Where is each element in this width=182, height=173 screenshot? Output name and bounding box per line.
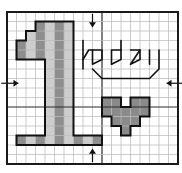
number-one-stitch bbox=[74, 136, 84, 146]
number-one-stitch bbox=[36, 31, 46, 41]
number-one-stitch bbox=[64, 22, 74, 32]
heart-stitch bbox=[140, 98, 150, 108]
number-one-stitch bbox=[45, 88, 55, 98]
number-one-stitch bbox=[55, 79, 65, 89]
number-one-stitch bbox=[64, 117, 74, 127]
number-one-stitch bbox=[93, 136, 103, 146]
heart-stitch bbox=[102, 98, 112, 108]
number-one-stitch bbox=[64, 60, 74, 70]
number-one-stitch bbox=[64, 126, 74, 136]
number-one-stitch bbox=[55, 60, 65, 70]
number-one-stitch bbox=[55, 69, 65, 79]
number-one-stitch bbox=[55, 22, 65, 32]
number-one-stitch bbox=[55, 136, 65, 146]
heart-stitch bbox=[121, 107, 131, 117]
number-one-stitch bbox=[64, 88, 74, 98]
number-one-stitch bbox=[36, 22, 46, 32]
number-one-stitch bbox=[64, 69, 74, 79]
number-one-stitch bbox=[55, 98, 65, 108]
heart-stitch bbox=[131, 107, 141, 117]
number-one-stitch bbox=[45, 69, 55, 79]
heart-stitch bbox=[112, 98, 122, 108]
number-one-stitch bbox=[17, 136, 27, 146]
heart-stitch bbox=[102, 107, 112, 117]
number-one-stitch bbox=[45, 22, 55, 32]
number-one-stitch bbox=[45, 126, 55, 136]
number-one-stitch bbox=[26, 136, 36, 146]
heart-stitch bbox=[112, 107, 122, 117]
number-one-stitch bbox=[55, 31, 65, 41]
number-one-stitch bbox=[55, 126, 65, 136]
number-one-stitch bbox=[36, 136, 46, 146]
number-one-stitch bbox=[36, 50, 46, 60]
number-one-stitch bbox=[64, 136, 74, 146]
number-one-stitch bbox=[26, 31, 36, 41]
number-one-stitch bbox=[26, 50, 36, 60]
number-one-stitch bbox=[17, 50, 27, 60]
number-one-stitch bbox=[45, 79, 55, 89]
number-one-stitch bbox=[17, 41, 27, 51]
heart-stitch bbox=[131, 117, 141, 127]
number-one-stitch bbox=[64, 107, 74, 117]
number-one-stitch bbox=[55, 88, 65, 98]
number-one-stitch bbox=[55, 117, 65, 127]
number-one-stitch bbox=[55, 107, 65, 117]
number-one-stitch bbox=[55, 41, 65, 51]
chart-background bbox=[0, 0, 182, 173]
number-one-stitch bbox=[26, 41, 36, 51]
heart-stitch bbox=[140, 107, 150, 117]
heart-stitch bbox=[112, 117, 122, 127]
number-one-stitch bbox=[45, 107, 55, 117]
number-one-stitch bbox=[45, 50, 55, 60]
number-one-stitch bbox=[45, 60, 55, 70]
number-one-stitch bbox=[36, 41, 46, 51]
heart-stitch bbox=[121, 126, 131, 136]
heart-stitch bbox=[131, 98, 141, 108]
number-one-stitch bbox=[83, 136, 93, 146]
number-one-stitch bbox=[64, 98, 74, 108]
number-one-stitch bbox=[55, 50, 65, 60]
number-one-stitch bbox=[45, 31, 55, 41]
number-one-stitch bbox=[45, 136, 55, 146]
number-one-stitch bbox=[45, 98, 55, 108]
number-one-stitch bbox=[45, 41, 55, 51]
number-one-stitch bbox=[64, 50, 74, 60]
number-one-stitch bbox=[64, 79, 74, 89]
number-one-stitch bbox=[64, 31, 74, 41]
number-one-stitch bbox=[64, 41, 74, 51]
cross-stitch-chart bbox=[0, 0, 182, 173]
heart-stitch bbox=[121, 117, 131, 127]
number-one-stitch bbox=[45, 117, 55, 127]
